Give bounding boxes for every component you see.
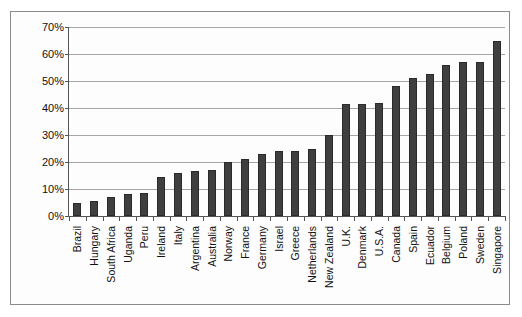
y-tick-label: 20% — [42, 156, 64, 168]
x-tick-mark — [186, 216, 187, 221]
x-label-slot: Belgium — [438, 27, 455, 216]
x-label-slot: Ireland — [153, 27, 170, 216]
x-tick-mark — [119, 216, 120, 221]
x-tick-mark — [237, 216, 238, 221]
x-tick-label: Denmark — [356, 226, 368, 269]
chart-figure: Percent of Nascents 0%10%20%30%40%50%60%… — [10, 11, 510, 305]
x-tick-mark — [488, 216, 489, 221]
x-tick-mark — [220, 216, 221, 221]
x-tick-mark — [287, 216, 288, 221]
x-tick-label: Argentina — [189, 226, 201, 271]
x-tick-mark — [203, 216, 204, 221]
x-tick-mark — [103, 216, 104, 221]
x-tick-label: Norway — [222, 226, 234, 262]
x-label-slot: New Zealand — [321, 27, 338, 216]
x-label-slot: Denmark — [354, 27, 371, 216]
x-tick-label: France — [239, 226, 251, 259]
x-tick-label: Greece — [289, 226, 301, 260]
x-tick-mark — [438, 216, 439, 221]
x-label-slot: Sweden — [471, 27, 488, 216]
x-label-slot: Uganda — [119, 27, 136, 216]
x-tick-label: Ireland — [155, 226, 167, 258]
x-tick-label: Italy — [172, 226, 184, 245]
x-tick-mark — [253, 216, 254, 221]
x-label-slot: Poland — [455, 27, 472, 216]
x-tick-label: U.S.A. — [373, 226, 385, 256]
x-tick-mark — [388, 216, 389, 221]
x-tick-label: Netherlands — [306, 226, 318, 283]
x-tick-label: Spain — [407, 226, 419, 253]
x-tick-mark — [304, 216, 305, 221]
x-tick-mark — [404, 216, 405, 221]
x-tick-label: Peru — [138, 226, 150, 248]
x-tick-mark — [321, 216, 322, 221]
x-label-slot: Greece — [287, 27, 304, 216]
x-tick-label: Israel — [273, 226, 285, 252]
x-tick-mark — [270, 216, 271, 221]
x-label-slot: U.K. — [337, 27, 354, 216]
x-tick-label: Germany — [256, 226, 268, 269]
x-tick-mark — [455, 216, 456, 221]
x-label-slot: Hungary — [86, 27, 103, 216]
plot-area: 0%10%20%30%40%50%60%70% BrazilHungarySou… — [68, 27, 505, 217]
x-tick-label: New Zealand — [323, 226, 335, 288]
x-tick-label: Belgium — [440, 226, 452, 264]
x-tick-label: Ecuador — [424, 226, 436, 265]
y-tick-label: 70% — [42, 21, 64, 33]
x-tick-mark — [136, 216, 137, 221]
x-tick-mark — [354, 216, 355, 221]
x-tick-mark — [69, 216, 70, 221]
x-tick-label: Canada — [390, 226, 402, 263]
x-label-slot: South Africa — [103, 27, 120, 216]
x-label-slot: Singapore — [488, 27, 505, 216]
x-tick-label: Sweden — [474, 226, 486, 264]
x-tick-label: U.K. — [340, 226, 352, 246]
x-tick-mark — [153, 216, 154, 221]
x-label-slot: Australia — [203, 27, 220, 216]
y-tick-label: 0% — [48, 210, 64, 222]
x-tick-mark — [471, 216, 472, 221]
x-label-slot: Peru — [136, 27, 153, 216]
x-tick-label: Brazil — [71, 226, 83, 252]
x-tick-label: Poland — [457, 226, 469, 259]
x-tick-mark — [86, 216, 87, 221]
x-label-slot: Germany — [253, 27, 270, 216]
x-label-slot: Argentina — [186, 27, 203, 216]
x-tick-mark — [421, 216, 422, 221]
x-tick-label: South Africa — [105, 226, 117, 283]
x-tick-label: Singapore — [491, 226, 503, 274]
y-tick-label: 30% — [42, 129, 64, 141]
x-tick-label: Australia — [206, 226, 218, 267]
x-label-slot: U.S.A. — [371, 27, 388, 216]
x-label-slot: Norway — [220, 27, 237, 216]
x-label-slot: France — [237, 27, 254, 216]
x-tick-label: Uganda — [122, 226, 134, 263]
x-label-slot: Italy — [170, 27, 187, 216]
x-label-slot: Israel — [270, 27, 287, 216]
x-tick-label: Hungary — [88, 226, 100, 266]
x-label-slot: Canada — [388, 27, 405, 216]
y-tick-label: 40% — [42, 102, 64, 114]
x-tick-mark — [170, 216, 171, 221]
x-tick-mark — [337, 216, 338, 221]
x-label-slot: Netherlands — [304, 27, 321, 216]
x-label-slot: Spain — [404, 27, 421, 216]
x-label-slot: Brazil — [69, 27, 86, 216]
y-tick-label: 10% — [42, 183, 64, 195]
y-tick-label: 60% — [42, 48, 64, 60]
x-tick-mark — [371, 216, 372, 221]
y-tick-label: 50% — [42, 75, 64, 87]
x-label-slot: Ecuador — [421, 27, 438, 216]
x-tick-mark — [505, 216, 506, 221]
